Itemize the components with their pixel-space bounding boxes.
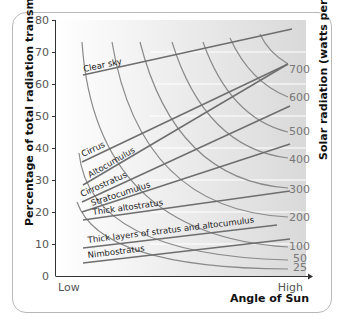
x-low-label: Low (58, 281, 80, 294)
svg-text:20: 20 (35, 206, 49, 219)
svg-text:200: 200 (289, 211, 310, 224)
chart-svg: Clear sky Cirrus Altocumulus Cirrostratu… (0, 0, 343, 321)
y-tick-labels: 0 10 20 30 40 50 60 70 80 (35, 14, 49, 283)
y2-axis-title: Solar radiation (watts per m²) (317, 0, 330, 160)
svg-text:25: 25 (293, 261, 307, 274)
x-axis-arrow-icon (308, 274, 313, 280)
svg-text:700: 700 (289, 63, 310, 76)
svg-text:10: 10 (35, 238, 49, 251)
svg-text:50: 50 (35, 110, 49, 123)
svg-text:40: 40 (35, 142, 49, 155)
svg-text:600: 600 (289, 91, 310, 104)
svg-text:70: 70 (35, 46, 49, 59)
svg-text:60: 60 (35, 78, 49, 91)
x-axis-title: Angle of Sun (230, 292, 309, 305)
svg-text:500: 500 (289, 125, 310, 138)
svg-text:80: 80 (35, 14, 49, 27)
svg-text:0: 0 (42, 270, 49, 283)
svg-text:300: 300 (289, 183, 310, 196)
svg-text:400: 400 (289, 153, 310, 166)
svg-text:30: 30 (35, 174, 49, 187)
y-axis-title: Percentage of total radiation transmitte… (23, 0, 36, 226)
